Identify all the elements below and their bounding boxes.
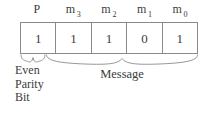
bit-cell-m2: 1 [92, 23, 127, 53]
top-label-m1: m1 [127, 2, 163, 20]
bit-field-diagram: P m3 m2 m1 m0 1 1 1 0 1 Even Parity Bit … [0, 0, 206, 114]
top-label-subscript [40, 19, 42, 20]
bit-cell-parity: 1 [21, 23, 56, 53]
top-label-subscript: 0 [182, 11, 188, 20]
top-label-subscript: 2 [111, 11, 117, 20]
top-label-subscript: 3 [75, 11, 81, 20]
top-label-base: P [34, 2, 41, 16]
parity-brace-icon [21, 55, 45, 62]
top-label-m0: m0 [162, 2, 198, 20]
top-label-m3: m3 [56, 2, 92, 20]
top-label-base: m [173, 2, 183, 16]
bit-row: 1 1 1 0 1 [20, 22, 198, 54]
top-label-parity: P [20, 2, 56, 20]
bit-cell-m1: 0 [127, 23, 162, 53]
bit-cell-m0: 1 [163, 23, 197, 53]
message-brace-icon [47, 55, 198, 64]
top-label-m2: m2 [91, 2, 127, 20]
parity-caption-line-3: Bit [15, 91, 71, 105]
top-label-base: m [66, 2, 76, 16]
bit-cell-m3: 1 [56, 23, 91, 53]
message-caption: Message [46, 67, 198, 81]
top-label-base: m [137, 2, 147, 16]
top-label-row: P m3 m2 m1 m0 [20, 2, 198, 20]
top-label-subscript: 1 [147, 11, 153, 20]
top-label-base: m [101, 2, 111, 16]
